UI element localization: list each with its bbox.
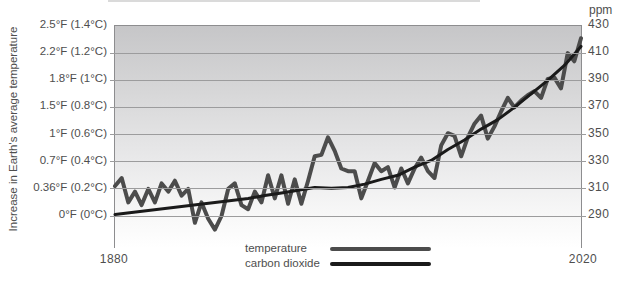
climate-chart-figure: ppm Increase in Earth's average temperat…	[0, 0, 631, 288]
gridline	[110, 216, 586, 217]
right-tick-label: 350	[588, 126, 609, 140]
legend-label-carbon-dioxide: carbon dioxide	[245, 257, 320, 269]
legend-label-temperature: temperature	[245, 242, 307, 254]
gridline	[110, 161, 586, 162]
left-tick-label: 0°F (0°C)	[0, 208, 107, 220]
legend-swatch-carbon-dioxide	[330, 262, 431, 266]
legend-swatch-temperature	[330, 247, 431, 251]
plot-area	[114, 25, 582, 248]
left-tick-label: 2.5°F (1.4°C)	[0, 18, 107, 30]
right-tick-label: 390	[588, 72, 609, 86]
left-tick-label: 1°F (0.6°C)	[0, 127, 107, 139]
co2-line	[115, 46, 581, 214]
gridline	[110, 107, 586, 108]
right-tick-label: 310	[588, 180, 609, 194]
gridline	[110, 134, 586, 135]
gridline	[110, 80, 586, 81]
x-axis-label-end: 2020	[569, 252, 597, 266]
top-crop-artifact	[108, 0, 480, 2]
gridline	[110, 188, 586, 189]
left-tick-label: 1.8°F (1°C)	[0, 73, 107, 85]
left-tick-label: 0.36°F (0.2°C)	[0, 181, 107, 193]
right-tick-label: 410	[588, 44, 609, 58]
right-tick-label: 290	[588, 207, 609, 221]
right-tick-label: 330	[588, 153, 609, 167]
left-tick-label: 2.2°F (1.2°C)	[0, 46, 107, 58]
right-axis-unit-label: ppm	[589, 3, 612, 17]
left-tick-label: 1.5°F (0.8°C)	[0, 100, 107, 112]
gridline	[110, 53, 586, 54]
left-tick-label: 0.7°F (0.4°C)	[0, 154, 107, 166]
x-axis-label-start: 1880	[100, 252, 128, 266]
right-tick-label: 430	[588, 17, 609, 31]
right-tick-label: 370	[588, 99, 609, 113]
